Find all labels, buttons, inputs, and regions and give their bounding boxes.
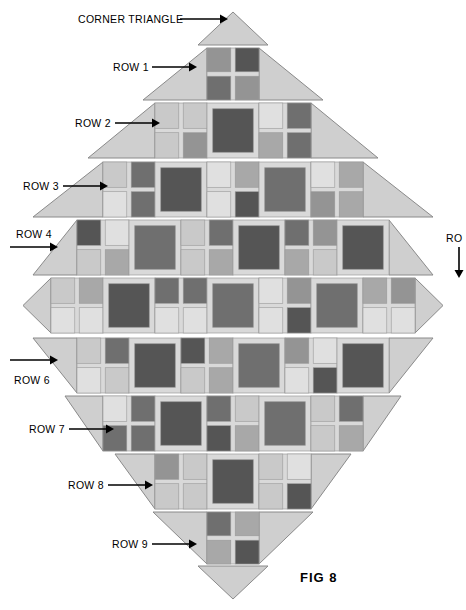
- row-8-block-patch: [183, 484, 207, 509]
- row-8: [115, 454, 351, 509]
- row-4-block-patch: [285, 250, 309, 275]
- row-9-block-patch: [207, 540, 231, 564]
- row-6-block-patch: [105, 338, 129, 363]
- arrow-row-4: [10, 243, 58, 252]
- row-1: [143, 48, 323, 100]
- row-5-block-center: [213, 284, 254, 328]
- row-4-block-patch: [105, 250, 129, 275]
- row-7-block-center: [265, 402, 306, 446]
- row-4-block-patch: [181, 250, 205, 275]
- label-row-2: ROW 2: [75, 118, 111, 129]
- row-8-block-patch: [287, 484, 311, 509]
- row-8-block-patch: [259, 484, 283, 509]
- row-3-block-patch: [131, 192, 155, 217]
- row-7-setting-right: [363, 396, 401, 451]
- row-3-block-center: [265, 168, 306, 212]
- row-7-block-patch: [131, 426, 155, 451]
- row-2-block-patch: [183, 133, 207, 158]
- row-7-block-patch: [339, 426, 363, 451]
- row-7-block-patch: [339, 396, 363, 421]
- row-9-setting-left: [153, 512, 207, 564]
- row-8-block-patch: [155, 454, 179, 479]
- row-6-block-patch: [105, 368, 129, 393]
- row-7-block-patch: [235, 426, 259, 451]
- row-2: [88, 103, 378, 158]
- row-6-block-center: [239, 344, 280, 388]
- row-3: [33, 162, 433, 217]
- row-5-block-patch: [183, 308, 207, 333]
- row-7-block-patch: [235, 396, 259, 421]
- row-6-block-patch: [285, 368, 309, 393]
- row-4-block-patch: [313, 220, 337, 245]
- row-3-block-patch: [235, 192, 259, 217]
- row-6-block-patch: [77, 368, 101, 393]
- row-3-block-patch: [103, 162, 127, 187]
- row-2-block-patch: [287, 133, 311, 158]
- row-3-block-center: [161, 168, 202, 212]
- row-1-block-patch: [235, 76, 259, 100]
- label-row-3: ROW 3: [23, 181, 59, 192]
- row-6-block-patch: [77, 338, 101, 363]
- row-7: [65, 396, 401, 451]
- row-9-block-patch: [207, 512, 231, 536]
- row-1-setting-right: [259, 48, 323, 100]
- corner-triangle-bottom: [198, 566, 268, 599]
- row-8-block-center: [213, 460, 254, 504]
- arrow-row-6: [10, 356, 58, 365]
- row-4-block-patch: [209, 250, 233, 275]
- row-2-block-center: [213, 109, 254, 153]
- row-6-setting-right: [389, 338, 433, 393]
- label-row-8: ROW 8: [68, 480, 104, 491]
- row-4-block-center: [135, 226, 176, 270]
- row-8-block-patch: [155, 484, 179, 509]
- row-6-block-patch: [181, 338, 205, 363]
- figure-8-quilt-diagram: [0, 0, 466, 610]
- row-2-block-patch: [155, 103, 179, 128]
- row-3-block-patch: [235, 162, 259, 187]
- label-row-7: ROW 7: [29, 424, 65, 435]
- row-3-block-patch: [311, 162, 335, 187]
- row-3-block-patch: [311, 192, 335, 217]
- row-2-block-patch: [287, 103, 311, 128]
- arrow-row-1: [152, 63, 197, 72]
- row-9-setting-right: [259, 512, 313, 564]
- row-9-block-patch: [235, 540, 259, 564]
- row-5-block-center: [109, 284, 150, 328]
- row-4-block-patch: [77, 250, 101, 275]
- row-4-block-patch: [105, 220, 129, 245]
- label-row-5: RO: [446, 233, 462, 244]
- row-3-block-patch: [207, 192, 231, 217]
- row-8-block-patch: [259, 454, 283, 479]
- arrow-row-8: [108, 481, 153, 490]
- row-7-block-patch: [311, 396, 335, 421]
- row-8-setting-right: [311, 454, 351, 509]
- row-8-block-patch: [287, 454, 311, 479]
- row-7-setting-left: [65, 396, 103, 451]
- row-2-block-patch: [155, 133, 179, 158]
- corner-triangle-top: [198, 12, 268, 45]
- row-6-block-patch: [313, 338, 337, 363]
- row-3-setting-right: [363, 162, 433, 217]
- row-4-block-patch: [209, 220, 233, 245]
- label-row-4: ROW 4: [16, 229, 52, 240]
- row-5-block-patch: [51, 278, 75, 303]
- row-3-block-patch: [131, 162, 155, 187]
- label-row-6: ROW 6: [14, 375, 50, 386]
- row-5-block-patch: [391, 308, 415, 333]
- row-5-block-patch: [287, 278, 311, 303]
- row-4: [33, 220, 433, 275]
- row-5-block-patch: [79, 278, 103, 303]
- arrow-head: [455, 270, 464, 278]
- row-1-block-patch: [207, 48, 231, 72]
- row-5: [23, 278, 443, 333]
- row-7-block-patch: [207, 396, 231, 421]
- row-6-block-patch: [285, 338, 309, 363]
- corner-triangle-top: [198, 12, 268, 45]
- row-4-setting-right: [389, 220, 433, 275]
- row-1-block-patch: [207, 76, 231, 100]
- label-row-9: ROW 9: [112, 539, 148, 550]
- row-2-block-patch: [259, 103, 283, 128]
- row-6-block-center: [135, 344, 176, 388]
- row-4-block-center: [343, 226, 384, 270]
- row-5-block-patch: [259, 308, 283, 333]
